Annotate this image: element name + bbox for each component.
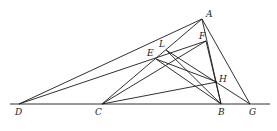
geometry-diagram: AFLEHDCBG — [0, 0, 277, 131]
point-label-e: E — [147, 49, 154, 58]
point-label-b: B — [218, 108, 225, 117]
segment-da — [19, 19, 202, 104]
point-label-c: C — [95, 108, 102, 117]
point-label-h: H — [219, 75, 227, 84]
point-label-g: G — [249, 108, 256, 117]
point-label-a: A — [206, 10, 213, 19]
segment-lg — [166, 50, 250, 104]
segment-cf — [102, 41, 206, 104]
segment-ag — [202, 19, 250, 104]
segment-lb — [166, 50, 221, 104]
point-label-d: D — [15, 108, 22, 117]
point-label-l: L — [159, 40, 165, 49]
point-label-f: F — [199, 32, 205, 41]
segment-eb — [156, 59, 221, 104]
construction-lines — [0, 0, 277, 131]
segment-ca — [102, 19, 202, 104]
segment-fb — [206, 41, 221, 104]
segment-eh — [156, 59, 217, 82]
segment-ch — [102, 82, 217, 104]
